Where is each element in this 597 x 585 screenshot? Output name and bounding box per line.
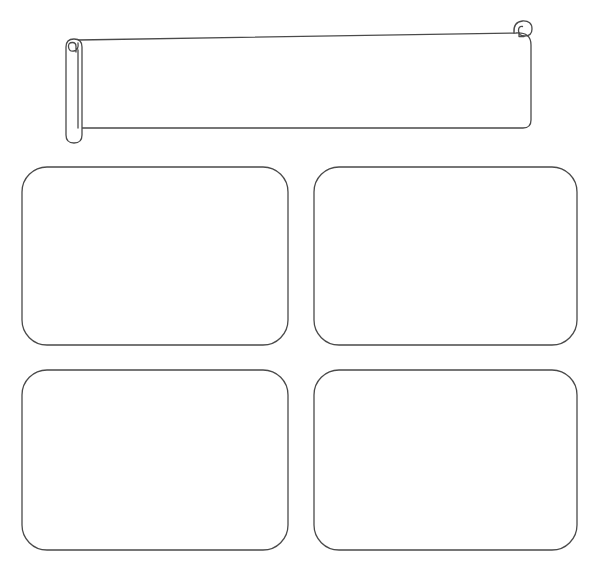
- card-placeholder-3[interactable]: [22, 370, 288, 550]
- card-placeholder-1[interactable]: [22, 167, 288, 345]
- card-placeholder-2[interactable]: [314, 167, 577, 345]
- scroll-roll-left: [66, 39, 82, 143]
- scroll-banner[interactable]: [66, 21, 532, 143]
- card-placeholder-4[interactable]: [314, 370, 577, 550]
- card-grid: [22, 167, 577, 550]
- wireframe-sketch-svg: [0, 0, 597, 585]
- wireframe-canvas: [0, 0, 597, 585]
- scroll-banner-sheet: [78, 33, 531, 128]
